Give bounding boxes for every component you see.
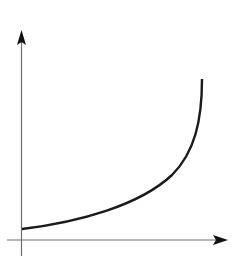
diagram-canvas [0, 0, 233, 268]
growth-curve [22, 79, 202, 229]
